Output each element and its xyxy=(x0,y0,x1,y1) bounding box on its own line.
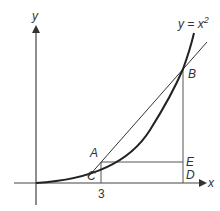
curve-label: y = x2 xyxy=(177,15,209,31)
y-axis-label: y xyxy=(31,9,39,23)
diagram-svg: y x y = x2 A B C E D 3 xyxy=(0,0,220,211)
point-c-label: C xyxy=(87,169,96,183)
point-d-label: D xyxy=(186,168,195,182)
parabola-curve xyxy=(36,33,194,183)
tick-label-3: 3 xyxy=(98,187,105,201)
point-a-label: A xyxy=(89,146,98,160)
diagram-figure: y x y = x2 A B C E D 3 xyxy=(0,0,220,211)
x-axis-label: x xyxy=(207,176,215,190)
point-b-label: B xyxy=(188,67,196,81)
point-e-label: E xyxy=(186,155,195,169)
